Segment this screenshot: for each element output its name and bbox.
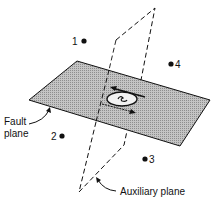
point-2-label: 2 <box>51 131 57 142</box>
point-3-dot <box>142 156 147 161</box>
auxiliary-plane-back <box>116 8 155 80</box>
point-2: 2 <box>51 131 65 142</box>
fault-plane-callout: Fault plane <box>4 107 51 139</box>
arrow-head-icon <box>96 177 101 183</box>
fault-plane-label-line1: Fault <box>4 116 26 127</box>
arrow-head-icon <box>46 107 51 113</box>
point-2-dot <box>59 133 64 138</box>
point-3-label: 3 <box>149 154 155 165</box>
point-1-label: 1 <box>72 36 78 47</box>
point-4-label: 4 <box>175 59 181 70</box>
focal-mechanism-diagram: 1 4 2 3 Fault plane Auxiliary plane <box>0 0 213 203</box>
auxiliary-plane-callout: Auxiliary plane <box>96 177 185 197</box>
point-4-dot <box>168 61 173 66</box>
point-4: 4 <box>168 59 181 70</box>
point-1-dot <box>81 38 86 43</box>
point-1: 1 <box>72 36 87 47</box>
point-3: 3 <box>142 154 155 165</box>
auxiliary-plane-label: Auxiliary plane <box>120 186 185 197</box>
fault-plane-label-line2: plane <box>4 128 29 139</box>
